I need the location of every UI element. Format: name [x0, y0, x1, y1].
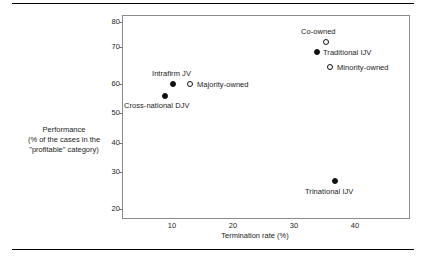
data-point-intrafirm-jv[interactable]	[170, 81, 176, 87]
data-point-cross-national-djv[interactable]	[162, 93, 168, 99]
x-axis-tick-label-30: 30	[282, 222, 306, 230]
data-label-cross-national-djv: Cross-national DJV	[124, 101, 190, 110]
plot-area-frame	[122, 15, 410, 219]
y-axis-tick-label-50: 50	[98, 109, 120, 117]
y-axis-tick-label-20: 20	[98, 205, 120, 213]
y-axis-tick-label-30: 30	[98, 168, 120, 176]
y-axis-tick-mark-80	[119, 22, 122, 23]
data-point-majority-owned[interactable]	[187, 81, 193, 87]
x-axis-title: Termination rate (%)	[175, 231, 335, 240]
y-axis-tick-label-70: 70	[98, 43, 120, 51]
y-axis-tick-mark-60	[119, 84, 122, 85]
y-axis-title-line-3: "profitable" category)	[10, 145, 118, 155]
y-axis-title-line-2: (% of the cases in the	[10, 135, 118, 145]
data-point-traditional-ijv[interactable]	[314, 49, 320, 55]
data-label-co-owned: Co-owned	[301, 27, 336, 36]
top-horizontal-rule	[12, 3, 414, 4]
data-point-co-owned[interactable]	[323, 39, 329, 45]
data-label-intrafirm-jv: Intrafirm JV	[152, 69, 191, 78]
data-point-trinational-ijv[interactable]	[332, 178, 338, 184]
data-label-trinational-ijv: Trinational IJV	[305, 187, 353, 196]
data-label-majority-owned: Majority-owned	[197, 80, 249, 89]
y-axis-title: Performance (% of the cases in the "prof…	[10, 125, 118, 155]
data-label-traditional-ijv: Traditional IJV	[323, 48, 371, 57]
x-axis-tick-label-20: 20	[221, 222, 245, 230]
y-axis-tick-label-60: 60	[98, 80, 120, 88]
y-axis-title-line-1: Performance	[10, 125, 118, 135]
y-axis-tick-label-80: 80	[98, 18, 120, 26]
scatter-chart-figure: 80 70 60 50 40 30 20 10 20 30 40 Termina…	[0, 0, 426, 258]
x-axis-tick-label-40: 40	[343, 222, 367, 230]
data-label-minority-owned: Minority-owned	[337, 63, 389, 72]
data-point-minority-owned[interactable]	[327, 64, 333, 70]
y-axis-tick-mark-30	[119, 172, 122, 173]
y-axis-tick-mark-70	[119, 47, 122, 48]
x-axis-tick-label-10: 10	[160, 222, 184, 230]
y-axis-tick-mark-40	[119, 143, 122, 144]
y-axis-tick-mark-50	[119, 113, 122, 114]
y-axis-tick-mark-20	[119, 209, 122, 210]
bottom-horizontal-rule	[12, 249, 414, 250]
